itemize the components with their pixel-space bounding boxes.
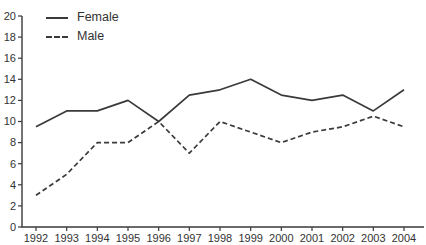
x-tick-label: 1995: [116, 232, 140, 244]
y-tick-label: 6: [10, 158, 16, 170]
y-tick-label: 4: [10, 179, 16, 191]
x-tick-label: 2002: [330, 232, 354, 244]
female-series-line: [36, 79, 404, 127]
x-tick-label: 1997: [177, 232, 201, 244]
x-tick-label: 1994: [85, 232, 109, 244]
female-line-swatch-icon: [46, 17, 68, 19]
x-tick-label: 2001: [300, 232, 324, 244]
x-tick-label: 1992: [24, 232, 48, 244]
chart-legend: Female Male: [46, 10, 119, 44]
x-tick-label: 2004: [392, 232, 416, 244]
x-tick-label: 1996: [146, 232, 170, 244]
y-tick-label: 8: [10, 136, 16, 148]
x-tick-label: 2003: [361, 232, 385, 244]
x-tick-label: 2000: [269, 232, 293, 244]
y-tick-label: 10: [4, 115, 16, 127]
y-tick-label: 2: [10, 200, 16, 212]
male-line-swatch-icon: [46, 36, 68, 38]
y-tick-label: 0: [10, 221, 16, 233]
axes: [22, 16, 424, 227]
legend-label-male: Male: [77, 29, 104, 44]
legend-item-male: Male: [46, 29, 119, 44]
male-series-line: [36, 116, 404, 195]
legend-label-female: Female: [77, 10, 119, 25]
y-tick-label: 20: [4, 10, 16, 22]
y-tick-label: 16: [4, 52, 16, 64]
x-tick-label: 1999: [238, 232, 262, 244]
line-chart: 0246810121416182019921993199419951996199…: [0, 0, 426, 245]
y-tick-label: 14: [4, 73, 16, 85]
y-tick-label: 12: [4, 94, 16, 106]
y-tick-label: 18: [4, 31, 16, 43]
x-tick-label: 1998: [208, 232, 232, 244]
x-tick-label: 1993: [54, 232, 78, 244]
legend-item-female: Female: [46, 10, 119, 25]
